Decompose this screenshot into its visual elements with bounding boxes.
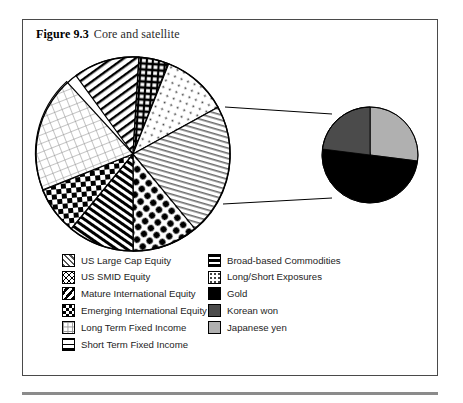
swatch-emerging-international-equity [62, 304, 75, 317]
swatch-us-large-cap-equity [62, 254, 75, 267]
legend-item-japanese-yen[interactable]: Japanese yen [208, 319, 341, 336]
callout-lines [223, 107, 332, 204]
legend-item-long-term-fixed-income[interactable]: Long Term Fixed Income [62, 319, 207, 336]
swatch-short-term-fixed-income [62, 338, 75, 351]
legend-column-right: Broad-based Commodities Long/Short Expos… [208, 252, 341, 336]
legend-label: Short Term Fixed Income [81, 340, 188, 350]
legend-item-broad-based-commodities[interactable]: Broad-based Commodities [208, 252, 341, 269]
legend-item-emerging-international-equity[interactable]: Emerging International Equity [62, 302, 207, 319]
legend-label: Long/Short Exposures [227, 272, 322, 282]
legend-label: Long Term Fixed Income [81, 323, 186, 333]
swatch-mature-international-equity [62, 287, 75, 300]
legend-item-korean-won[interactable]: Korean won [208, 302, 341, 319]
legend-item-us-large-cap-equity[interactable]: US Large Cap Equity [62, 252, 207, 269]
swatch-japanese-yen [208, 321, 221, 334]
bottom-rule [22, 392, 438, 395]
legend-label: Mature International Equity [81, 289, 196, 299]
swatch-gold [208, 287, 221, 300]
legend: US Large Cap Equity US SMID Equity Matur… [62, 252, 392, 352]
swatch-long-term-fixed-income [62, 321, 75, 334]
legend-label: Japanese yen [227, 323, 287, 333]
swatch-korean-won [208, 304, 221, 317]
legend-item-mature-international-equity[interactable]: Mature International Equity [62, 286, 207, 303]
core-portfolio-pie [9, 39, 265, 268]
legend-item-us-smid-equity[interactable]: US SMID Equity [62, 269, 207, 286]
legend-label: Emerging International Equity [81, 306, 207, 316]
swatch-broad-based-commodities [208, 254, 221, 267]
callout-line-bottom [223, 198, 332, 204]
legend-item-long-short-exposures[interactable]: Long/Short Exposures [208, 269, 341, 286]
legend-label: Gold [227, 289, 247, 299]
legend-label: US SMID Equity [81, 272, 150, 282]
legend-item-short-term-fixed-income[interactable]: Short Term Fixed Income [62, 336, 207, 353]
callout-line-top [225, 107, 332, 114]
legend-column-left: US Large Cap Equity US SMID Equity Matur… [62, 252, 207, 353]
pie-slice-japanese-yen[interactable] [370, 107, 418, 161]
legend-item-gold[interactable]: Gold [208, 286, 341, 303]
legend-label: Korean won [227, 306, 278, 316]
swatch-long-short-exposures [208, 271, 221, 284]
satellite-pie [322, 107, 418, 203]
legend-label: Broad-based Commodities [227, 256, 341, 266]
swatch-us-smid-equity [62, 271, 75, 284]
legend-label: US Large Cap Equity [81, 256, 171, 266]
